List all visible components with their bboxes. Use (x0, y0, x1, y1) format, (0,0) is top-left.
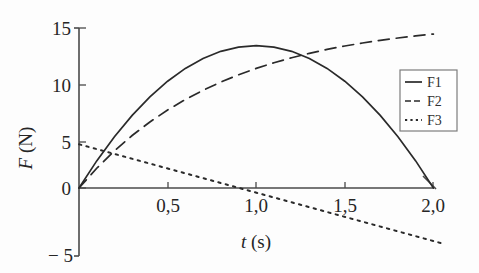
series-line-f2 (79, 34, 433, 188)
y-axis-title-symbol: F (15, 157, 36, 170)
x-tick-label-1p0: 1,0 (244, 195, 268, 216)
y-tick-marks (79, 28, 86, 188)
legend-label-f1: F1 (427, 75, 442, 90)
y-tick-label-15: 15 (52, 18, 71, 39)
y-tick-label-10: 10 (52, 75, 71, 96)
axis-titles: F (N) t (s) (15, 127, 271, 253)
y-tick-label-minus-5: − 5 (48, 245, 73, 266)
y-axis-title: F (N) (15, 127, 37, 171)
y-tick-labels: 15 10 5 0 − 5 (48, 18, 73, 266)
axes-group (74, 28, 436, 256)
x-tick-label-2p0: 2,0 (421, 195, 445, 216)
y-axis-title-unit: (N) (15, 127, 37, 158)
series-line-f3 (79, 144, 442, 243)
y-tick-label-5: 5 (62, 132, 72, 153)
legend-label-f2: F2 (427, 94, 442, 109)
x-tick-label-1p5: 1,5 (333, 195, 357, 216)
force-time-line-chart: 15 10 5 0 − 5 0,5 1,0 1,5 2,0 (0, 0, 479, 273)
x-tick-label-0p5: 0,5 (156, 195, 180, 216)
series-line-f1 (79, 46, 433, 188)
x-axis-title: t (s) (241, 231, 271, 253)
legend-label-f3: F3 (427, 113, 442, 128)
chart-legend[interactable]: F1 F2 F3 (400, 70, 457, 131)
y-tick-label-0: 0 (62, 178, 72, 199)
x-axis-title-unit: (s) (246, 231, 271, 253)
x-tick-marks (168, 182, 433, 188)
chart-figure: 15 10 5 0 − 5 0,5 1,0 1,5 2,0 (0, 0, 479, 273)
